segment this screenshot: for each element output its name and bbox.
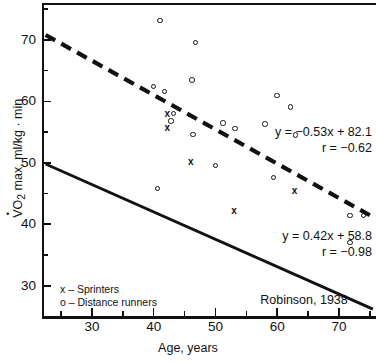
data-point-distance-runner (232, 126, 237, 131)
chart-legend: x – Sprinters o – Distance runners (60, 283, 157, 309)
data-point-sprinter: x (230, 207, 238, 215)
data-point-distance-runner (288, 104, 293, 109)
data-point-distance-runner (213, 163, 218, 168)
x-axis-title: Age, years (0, 341, 376, 355)
solid-fit-annotation: y = 0.42x + 58.8 r = −0.98 (250, 228, 372, 260)
data-point-sprinter: x (187, 158, 195, 166)
data-point-distance-runner (189, 77, 194, 82)
y-axis-title: VO2 max, ml/kg · min (11, 43, 28, 273)
data-point-distance-runner (157, 18, 162, 23)
data-point-sprinter: x (290, 187, 298, 195)
legend-item-sprinters: x – Sprinters (60, 283, 157, 296)
chart-container: 3040506070 3040506070 xxxxx VO2 max, ml/… (0, 0, 376, 363)
data-point-distance-runner (220, 120, 225, 125)
dashed-fit-correlation: r = −0.62 (256, 140, 372, 156)
dashed-fit-equation: y = −0.53x + 82.1 (256, 124, 372, 140)
data-point-sprinter: x (163, 124, 171, 132)
data-point-sprinter: x (163, 110, 171, 118)
dashed-fit-annotation: y = −0.53x + 82.1 r = −0.62 (256, 124, 372, 156)
solid-fit-correlation: r = −0.98 (250, 244, 372, 260)
legend-item-distance-runners: o – Distance runners (60, 296, 157, 309)
regression-lines (0, 0, 376, 363)
data-point-distance-runner (274, 93, 279, 98)
data-point-distance-runner (190, 132, 195, 137)
v-dot-glyph: V (11, 209, 25, 217)
source-citation: Robinson, 1938 (236, 293, 372, 307)
solid-fit-equation: y = 0.42x + 58.8 (250, 228, 372, 244)
